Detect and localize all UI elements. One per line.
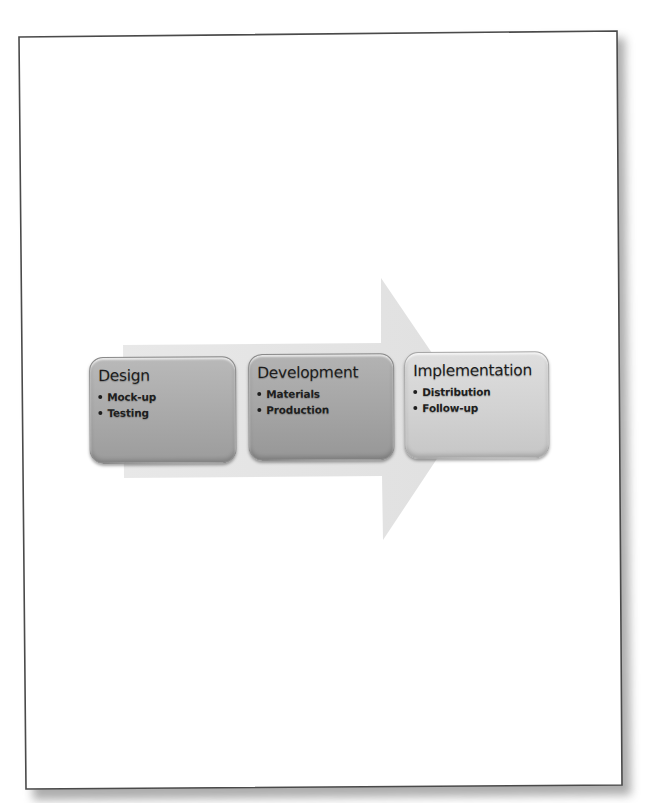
step-item: Follow-up (413, 399, 540, 416)
bullet-icon (257, 392, 261, 396)
step-title: Development (257, 363, 385, 382)
step-item-label: Mock-up (107, 389, 156, 405)
step-item-label: Testing (107, 405, 148, 421)
bullet-icon (257, 408, 261, 412)
document-page: Design Mock-up Testing Development Mater… (0, 0, 647, 803)
step-item-label: Production (266, 402, 329, 418)
step-development: Development Materials Production (248, 353, 395, 461)
step-title: Design (98, 366, 227, 385)
step-items: Materials Production (257, 385, 385, 418)
step-item-label: Distribution (422, 384, 490, 400)
step-item-label: Follow-up (422, 400, 478, 416)
step-item-label: Materials (266, 386, 320, 402)
step-items: Mock-up Testing (98, 388, 227, 421)
step-item: Testing (98, 404, 227, 421)
step-implementation: Implementation Distribution Follow-up (404, 351, 550, 459)
step-item: Production (257, 401, 385, 418)
bullet-icon (98, 411, 102, 415)
step-item: Mock-up (98, 388, 227, 405)
process-steps: Design Mock-up Testing Development Mater… (89, 351, 560, 466)
step-items: Distribution Follow-up (413, 383, 540, 416)
bullet-icon (413, 406, 417, 410)
step-item: Materials (257, 385, 385, 402)
bullet-icon (98, 395, 102, 399)
step-item: Distribution (413, 383, 540, 400)
step-design: Design Mock-up Testing (89, 356, 237, 464)
step-title: Implementation (413, 361, 540, 380)
bullet-icon (413, 390, 417, 394)
